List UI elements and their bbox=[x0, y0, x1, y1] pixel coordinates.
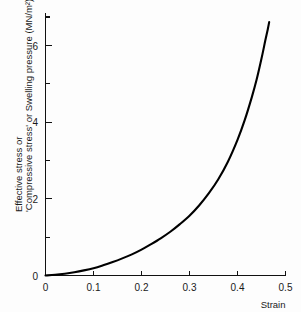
x-axis-title: Strain bbox=[261, 299, 286, 310]
chart-container: 0 2 4 6 0 0.1 0.2 0.3 0.4 0.5 Strain Eff… bbox=[0, 0, 301, 312]
x-tick-label-3: 0.3 bbox=[183, 282, 197, 293]
x-tick-label-0: 0 bbox=[43, 282, 49, 293]
x-tick-label-5: 0.5 bbox=[279, 282, 293, 293]
x-tick-label-2: 0.2 bbox=[135, 282, 149, 293]
stress-strain-chart: 0 2 4 6 0 0.1 0.2 0.3 0.4 0.5 Strain Eff… bbox=[0, 0, 301, 312]
x-tick-label-4: 0.4 bbox=[231, 282, 245, 293]
y-tick-label-0: 0 bbox=[32, 271, 38, 282]
y-axis-title-line2: 'Compressive stress' or Swelling pressur… bbox=[23, 0, 34, 212]
x-tick-label-1: 0.1 bbox=[87, 282, 101, 293]
